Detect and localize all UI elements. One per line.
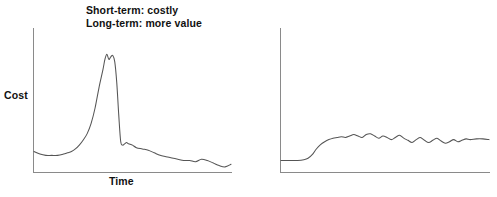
two-panel-cost-time-figure: Short-term: costly Long-term: more value… — [0, 0, 497, 197]
cost-curve-right — [281, 134, 489, 161]
cost-curve-left — [34, 54, 231, 167]
chart-panel-left: Short-term: costly Long-term: more value… — [0, 0, 249, 197]
axis-lines-left — [34, 28, 233, 173]
plot-area-left — [0, 0, 249, 197]
chart-panel-right: Short-term: less cost Long-term: less va… — [248, 0, 497, 197]
plot-area-right — [248, 0, 497, 197]
axis-lines-right — [281, 28, 491, 173]
